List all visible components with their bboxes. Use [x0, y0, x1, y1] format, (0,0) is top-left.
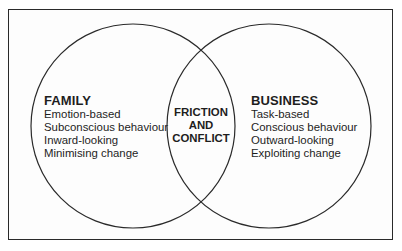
intersection-line: FRICTION — [165, 106, 237, 119]
business-item: Outward-looking — [251, 134, 357, 147]
family-item: Subconscious behaviour — [44, 121, 168, 134]
family-item: Emotion-based — [44, 108, 168, 121]
family-set-label: FAMILY Emotion-based Subconscious behavi… — [44, 94, 168, 160]
intersection-line: AND — [165, 119, 237, 132]
business-item: Task-based — [251, 108, 357, 121]
intersection-line: CONFLICT — [165, 132, 237, 145]
intersection-label: FRICTION AND CONFLICT — [165, 106, 237, 145]
business-title: BUSINESS — [251, 94, 357, 108]
business-set-label: BUSINESS Task-based Conscious behaviour … — [251, 94, 357, 160]
family-item: Minimising change — [44, 147, 168, 160]
family-item: Inward-looking — [44, 134, 168, 147]
business-item: Exploiting change — [251, 147, 357, 160]
family-title: FAMILY — [44, 94, 168, 108]
business-item: Conscious behaviour — [251, 121, 357, 134]
